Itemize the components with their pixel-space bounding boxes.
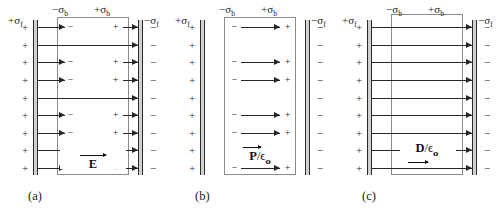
bound-charge: + — [354, 41, 364, 49]
bound-charge: − — [230, 129, 239, 136]
field-arrowhead — [274, 130, 280, 136]
bound-charge: + — [187, 129, 197, 137]
capacitor-plate-right — [305, 20, 310, 175]
bound-charge: − — [482, 111, 492, 119]
bound-charge: + — [187, 146, 197, 154]
bound-charge: − — [482, 94, 492, 102]
panel-a: +σf −σb +σb −σf (a) +−+−+−+−+−+−+−+−+−−+… — [0, 0, 167, 212]
bound-charge: − — [315, 23, 325, 31]
bound-charge: − — [148, 41, 158, 49]
bound-charge: + — [20, 111, 30, 119]
bound-charge: − — [148, 111, 158, 119]
vector-label-E: E — [62, 151, 124, 172]
bound-charge: − — [482, 41, 492, 49]
bound-charge: − — [315, 94, 325, 102]
bound-charge: − — [148, 164, 158, 172]
bound-charge: + — [187, 164, 197, 172]
bound-charge: − — [482, 58, 492, 66]
field-arrowhead — [466, 112, 472, 118]
vector-label-P-over-eps0: P/ϵo — [229, 143, 291, 166]
field-arrowhead — [132, 112, 138, 118]
field-arrowhead — [132, 24, 138, 30]
bound-charge: − — [315, 146, 325, 154]
field-arrowhead — [274, 112, 280, 118]
caption-panel-a: (a) — [28, 189, 42, 204]
field-arrowhead — [274, 59, 280, 65]
field-arrowhead — [466, 59, 472, 65]
bound-charge: − — [482, 146, 492, 154]
bound-charge: + — [187, 76, 197, 84]
bound-charge: + — [354, 164, 364, 172]
bound-charge: − — [315, 164, 325, 172]
capacitor-plate-right — [138, 20, 143, 175]
label-sigma-bound-negative: −σb — [52, 3, 68, 18]
field-arrowhead — [132, 77, 138, 83]
bound-charge: + — [187, 23, 197, 31]
bound-charge: − — [482, 23, 492, 31]
bound-charge: + — [283, 76, 292, 83]
bound-charge: − — [66, 76, 75, 83]
bound-charge: + — [20, 146, 30, 154]
panel-c: +σf −σb +σb −σf (c) +−+−+−+−+−+−+−+−+− D… — [334, 0, 501, 212]
caption-panel-c: (c) — [362, 189, 376, 204]
field-arrowhead — [466, 147, 472, 153]
field-arrowhead — [466, 130, 472, 136]
label-sigma-bound-positive: +σb — [261, 3, 277, 18]
field-arrowhead — [59, 24, 65, 30]
bound-charge: − — [148, 94, 158, 102]
bound-charge: + — [354, 111, 364, 119]
field-arrowhead — [132, 42, 138, 48]
bound-charge: + — [283, 23, 292, 30]
field-line-segment — [372, 45, 472, 46]
bound-charge: + — [187, 58, 197, 66]
bound-charge: + — [354, 58, 364, 66]
field-arrowhead — [274, 165, 280, 171]
bound-charge: − — [66, 58, 75, 65]
bound-charge: + — [20, 76, 30, 84]
bound-charge: − — [482, 129, 492, 137]
bound-charge: − — [230, 111, 239, 118]
bound-charge: − — [66, 111, 75, 118]
bound-charge: + — [20, 94, 30, 102]
panel-b: +σf −σb +σb −σf (b) +−+−+−+−+−+−+−+−+−−+… — [167, 0, 334, 212]
bound-charge: − — [66, 129, 75, 136]
bound-charge: + — [354, 76, 364, 84]
bound-charge: + — [354, 23, 364, 31]
field-line-segment — [372, 62, 472, 63]
bound-charge: − — [315, 58, 325, 66]
field-line-segment — [372, 133, 472, 134]
bound-charge: − — [148, 58, 158, 66]
bound-charge: − — [230, 76, 239, 83]
field-line-segment — [372, 80, 472, 81]
field-arrowhead — [466, 42, 472, 48]
field-arrowhead — [466, 165, 472, 171]
field-arrowhead — [132, 59, 138, 65]
field-arrowhead — [59, 59, 65, 65]
bound-charge: − — [66, 23, 75, 30]
field-arrowhead — [466, 24, 472, 30]
field-line-segment — [372, 27, 472, 28]
bound-charge: + — [111, 129, 120, 136]
bound-charge: + — [111, 111, 120, 118]
bound-charge: + — [354, 94, 364, 102]
field-arrowhead — [274, 24, 280, 30]
bound-charge: + — [111, 58, 120, 65]
field-line-segment — [372, 168, 472, 169]
bound-charge: + — [187, 111, 197, 119]
bound-charge: − — [148, 23, 158, 31]
field-arrowhead — [132, 165, 138, 171]
bound-charge: − — [148, 76, 158, 84]
field-arrowhead — [132, 95, 138, 101]
label-sigma-bound-positive: +σb — [428, 3, 444, 18]
bound-charge: + — [354, 129, 364, 137]
bound-charge: + — [283, 111, 292, 118]
bound-charge: + — [20, 41, 30, 49]
bound-charge: − — [315, 76, 325, 84]
bound-charge: − — [230, 23, 239, 30]
bound-charge: + — [20, 23, 30, 31]
bound-charge: + — [187, 94, 197, 102]
bound-charge: − — [482, 164, 492, 172]
bound-charge: − — [148, 146, 158, 154]
vector-label-D-over-eps0: D/ϵo — [396, 141, 458, 166]
field-arrowhead — [466, 95, 472, 101]
